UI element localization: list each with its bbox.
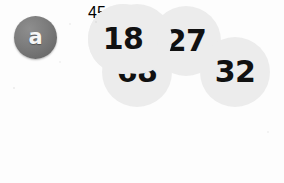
letter-a-badge-icon: a (14, 16, 57, 59)
ring-node-upper-right: 32 (200, 37, 270, 107)
ring-node-bottom: 18 (88, 4, 158, 74)
ring-node-upper-right-value: 32 (215, 57, 256, 87)
ring-node-bottom-value: 18 (103, 24, 144, 54)
number-cluster-diagram: 27 68 32 74 29 18 45 (88, 4, 284, 183)
figure-label-badge: a (14, 16, 57, 59)
